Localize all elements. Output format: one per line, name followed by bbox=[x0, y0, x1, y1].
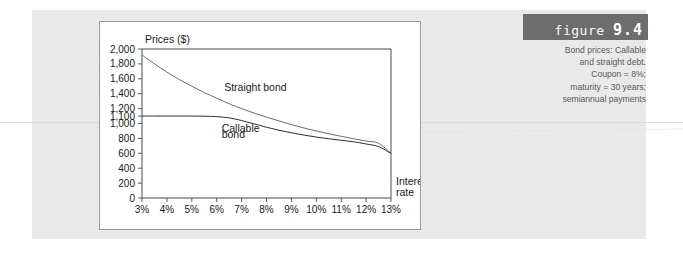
x-tick-label: 9% bbox=[284, 204, 299, 215]
x-tick-label: 11% bbox=[332, 204, 351, 215]
x-axis-title-line2: rate bbox=[396, 186, 414, 198]
series-annotation: bond bbox=[222, 128, 246, 140]
figure-caption-text: Bond prices: Callable and straight debt.… bbox=[523, 44, 648, 105]
y-tick-label: 2,000 bbox=[110, 44, 135, 55]
figure-number: 9.4 bbox=[613, 21, 643, 39]
y-tick-label: 800 bbox=[118, 133, 135, 144]
x-tick-label: 12% bbox=[356, 204, 376, 215]
x-tick-label: 4% bbox=[160, 204, 175, 215]
y-tick-label: 1,600 bbox=[110, 73, 135, 84]
caption-line: and straight debt. bbox=[523, 56, 646, 68]
y-tick-label: 1,800 bbox=[110, 58, 135, 69]
caption-line: semiannual payments bbox=[523, 93, 646, 105]
x-tick-label: 8% bbox=[259, 204, 274, 215]
y-tick-label: 200 bbox=[118, 178, 135, 189]
plot-frame bbox=[142, 49, 391, 198]
series-annotation: Straight bond bbox=[224, 81, 287, 93]
y-tick-label: 1,200 bbox=[110, 103, 135, 114]
y-tick-label: 400 bbox=[118, 163, 135, 174]
series-annotations: Straight bondCallablebond bbox=[222, 81, 287, 140]
series-line bbox=[142, 116, 391, 153]
bond-price-chart: 02004006008001,0001,1001,2001,4001,6001,… bbox=[100, 22, 420, 229]
figure-label: figure bbox=[555, 23, 605, 38]
caption-line: Coupon = 8%; bbox=[523, 68, 646, 80]
caption-line: Bond prices: Callable bbox=[523, 44, 646, 56]
x-tick-label: 5% bbox=[185, 204, 200, 215]
y-tick-label: 600 bbox=[118, 148, 135, 159]
x-tick-label: 13% bbox=[381, 204, 401, 215]
series-line bbox=[142, 55, 391, 153]
y-axis-ticks: 02004006008001,0001,1001,2001,4001,6001,… bbox=[110, 44, 142, 204]
figure-caption-block: figure 9.4 Bond prices: Callable and str… bbox=[523, 14, 648, 105]
x-tick-label: 3% bbox=[135, 204, 150, 215]
x-tick-label: 10% bbox=[306, 204, 326, 215]
x-axis-ticks: 3%4%5%6%7%8%9%10%11%12%13% bbox=[135, 198, 401, 215]
y-tick-label: 1,400 bbox=[110, 88, 135, 99]
figure-header-text: figure 9.4 bbox=[555, 21, 643, 39]
y-tick-label: 0 bbox=[129, 193, 135, 204]
chart-panel: 02004006008001,0001,1001,2001,4001,6001,… bbox=[99, 21, 421, 230]
x-tick-label: 6% bbox=[209, 204, 224, 215]
x-tick-label: 7% bbox=[234, 204, 249, 215]
caption-line: maturity = 30 years; bbox=[523, 81, 646, 93]
series-lines bbox=[142, 55, 391, 153]
figure-header-bar: figure 9.4 bbox=[523, 14, 648, 40]
y-axis-title: Prices ($) bbox=[145, 33, 190, 45]
